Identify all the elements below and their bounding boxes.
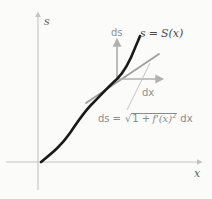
radicand-function: f'(x) bbox=[152, 113, 172, 124]
arc-length-formula: ds=√1 +f'(x)2dx bbox=[98, 113, 193, 124]
dx-label: dx bbox=[142, 88, 154, 98]
arc-length-figure: s x ds dx s=S(x) ds=√1 +f'(x)2dx bbox=[0, 0, 212, 199]
formula-equals: = bbox=[113, 113, 121, 124]
formula-lhs: ds bbox=[98, 113, 110, 124]
curve-label-function: S(x) bbox=[161, 27, 183, 40]
s-axis-label: s bbox=[44, 16, 50, 27]
radicand-lead: 1 + bbox=[132, 113, 150, 124]
curve-equation-label: s=S(x) bbox=[140, 28, 183, 39]
curve-label-equals: = bbox=[149, 27, 158, 40]
formula-radicand: 1 +f'(x)2 bbox=[131, 113, 177, 124]
ds-label: ds bbox=[111, 28, 123, 38]
x-axis-label: x bbox=[194, 168, 200, 179]
radicand-exponent: 2 bbox=[172, 112, 176, 120]
formula-trailing: dx bbox=[180, 113, 192, 124]
curve-label-variable: s bbox=[140, 27, 146, 40]
formula-radical: √1 +f'(x)2 bbox=[124, 113, 177, 124]
